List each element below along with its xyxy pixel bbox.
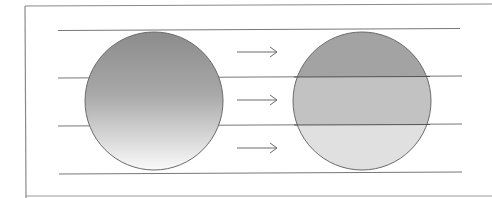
- gradient-sphere: [85, 32, 223, 170]
- band-middle: [290, 77, 440, 125]
- banded-sphere: [290, 30, 440, 173]
- arrow-icon: [237, 95, 277, 105]
- arrow-icon: [237, 47, 277, 57]
- diagram-canvas: [0, 0, 492, 198]
- arrow-icon: [237, 143, 277, 153]
